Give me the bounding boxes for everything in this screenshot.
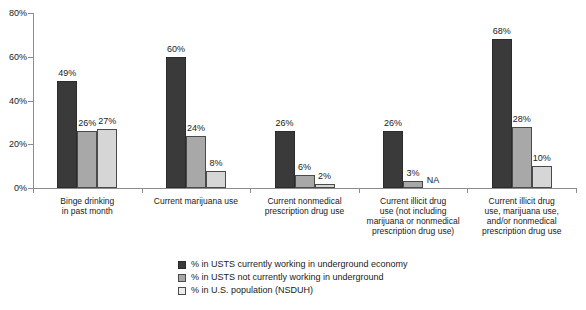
- y-axis-tick-label: 0%: [0, 184, 27, 193]
- legend-label: % in USTS not currently working in under…: [191, 273, 384, 282]
- legend-label: % in USTS currently working in undergrou…: [191, 260, 408, 269]
- bar-not-available: NA: [423, 187, 443, 188]
- chart-legend: % in USTS currently working in undergrou…: [178, 258, 408, 297]
- y-axis-tick-label: 40%: [0, 97, 27, 106]
- bar-value-label: 6%: [298, 163, 311, 172]
- bar[interactable]: 3%: [403, 181, 423, 188]
- bar[interactable]: 26%: [77, 131, 97, 188]
- bar[interactable]: 68%: [492, 39, 512, 188]
- category-label-line: marijuana or nonmedical: [359, 216, 468, 226]
- y-axis-tick: [28, 57, 33, 58]
- category-label-line: use (not including: [359, 206, 468, 216]
- legend-swatch: [178, 274, 186, 282]
- x-axis-tick: [33, 188, 34, 193]
- bar-value-label: 26%: [275, 119, 293, 128]
- category-label-line: Current marijuana use: [142, 196, 251, 206]
- category-label-line: prescription drug use: [250, 206, 359, 216]
- bar-value-label: 49%: [58, 69, 76, 78]
- bar-fill: [206, 171, 226, 189]
- x-axis-tick: [467, 188, 468, 193]
- category-label-line: Binge drinking: [33, 196, 142, 206]
- bar-fill: [275, 131, 295, 188]
- category-label: Current nonmedicalprescription drug use: [250, 196, 359, 216]
- legend-item[interactable]: % in USTS not currently working in under…: [178, 271, 408, 284]
- category-label: Current illicit druguse, marijuana use,a…: [467, 196, 576, 236]
- bar[interactable]: 60%: [166, 57, 186, 188]
- bar[interactable]: 26%: [275, 131, 295, 188]
- x-axis-tick: [359, 188, 360, 193]
- bar-fill: [77, 131, 97, 188]
- legend-swatch: [178, 261, 186, 269]
- bar-fill: [492, 39, 512, 188]
- bar-value-label: 8%: [209, 159, 222, 168]
- x-axis-tick: [576, 188, 577, 193]
- bar[interactable]: 10%: [532, 166, 552, 188]
- bar-value-label: 26%: [78, 119, 96, 128]
- category-label-line: Current illicit drug: [359, 196, 468, 206]
- category-label: Binge drinkingin past month: [33, 196, 142, 216]
- y-axis-tick-label: 80%: [0, 9, 27, 18]
- bar[interactable]: 24%: [186, 136, 206, 189]
- category-label-line: Current illicit drug: [467, 196, 576, 206]
- bar-value-label: 28%: [513, 115, 531, 124]
- category-label-line: prescription drug use): [359, 226, 468, 236]
- y-axis-tick: [28, 101, 33, 102]
- bar-fill: [186, 136, 206, 189]
- bar-fill: [295, 175, 315, 188]
- bar-fill: [403, 181, 423, 188]
- bar[interactable]: 8%: [206, 171, 226, 189]
- bar[interactable]: 49%: [57, 81, 77, 188]
- x-axis-tick: [250, 188, 251, 193]
- legend-item[interactable]: % in U.S. population (NSDUH): [178, 284, 408, 297]
- bar-value-label: 3%: [407, 169, 420, 178]
- category-label-line: and/or nonmedical: [467, 216, 576, 226]
- bar-fill: [315, 184, 335, 188]
- bar-value-label: 26%: [384, 119, 402, 128]
- legend-item[interactable]: % in USTS currently working in undergrou…: [178, 258, 408, 271]
- bar-value-label: 24%: [187, 124, 205, 133]
- legend-label: % in U.S. population (NSDUH): [191, 286, 313, 295]
- y-axis-line: [33, 13, 34, 189]
- bar[interactable]: 6%: [295, 175, 315, 188]
- y-axis-tick: [28, 13, 33, 14]
- category-label-line: Current nonmedical: [250, 196, 359, 206]
- category-label: Current marijuana use: [142, 196, 251, 206]
- category-label-line: in past month: [33, 206, 142, 216]
- bar-fill: [383, 131, 403, 188]
- x-axis-tick: [142, 188, 143, 193]
- category-label-line: prescription drug use: [467, 226, 576, 236]
- bar-value-label: 2%: [318, 172, 331, 181]
- bar[interactable]: 2%: [315, 184, 335, 188]
- bar[interactable]: 27%: [97, 129, 117, 188]
- bar-value-label: 60%: [167, 45, 185, 54]
- category-label-line: use, marijuana use,: [467, 206, 576, 216]
- bar-value-label: 10%: [533, 154, 551, 163]
- bar-fill: [166, 57, 186, 188]
- legend-swatch: [178, 287, 186, 295]
- y-axis-tick: [28, 144, 33, 145]
- bar-fill: [512, 127, 532, 188]
- bar-fill: [532, 166, 552, 188]
- category-label: Current illicit druguse (not includingma…: [359, 196, 468, 236]
- y-axis-tick-label: 20%: [0, 140, 27, 149]
- y-axis-tick-label: 60%: [0, 53, 27, 62]
- grouped-bar-chart: 0%20%40%60%80% 49%26%27%60%24%8%26%6%2%2…: [0, 0, 586, 310]
- bar[interactable]: 28%: [512, 127, 532, 188]
- bar-value-label: 27%: [98, 117, 116, 126]
- bar-value-label: NA: [427, 176, 440, 185]
- x-axis-baseline: [33, 188, 576, 189]
- bar-fill: [97, 129, 117, 188]
- bar-value-label: 68%: [493, 27, 511, 36]
- bar[interactable]: 26%: [383, 131, 403, 188]
- bar-fill: [57, 81, 77, 188]
